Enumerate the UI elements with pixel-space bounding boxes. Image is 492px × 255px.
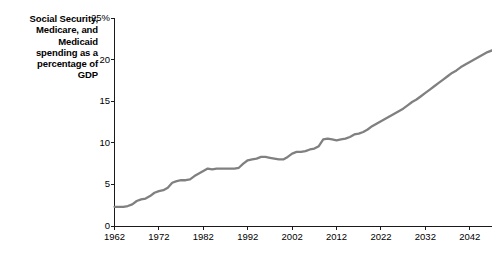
x-axis-tick-label: 1962 bbox=[95, 231, 135, 242]
x-axis-tick-label: 2002 bbox=[272, 231, 312, 242]
x-axis-tick-label: 1972 bbox=[139, 231, 179, 242]
x-axis-tick-label: 2042 bbox=[450, 231, 490, 242]
x-axis-tick-label: 2032 bbox=[405, 231, 445, 242]
x-axis-tick-label: 1982 bbox=[183, 231, 223, 242]
x-axis-tick-label: 1992 bbox=[228, 231, 268, 242]
x-axis-tick-label: 2012 bbox=[317, 231, 357, 242]
chart-figure: Social Security, Medicare, and Medicaid … bbox=[0, 0, 492, 255]
x-axis-tick-labels: 196219721982199220022012202220322042 bbox=[0, 0, 492, 255]
x-axis-tick-label: 2022 bbox=[361, 231, 401, 242]
